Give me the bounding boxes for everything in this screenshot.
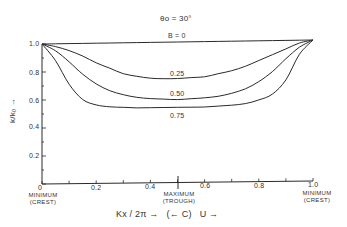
y-tick-label-0.4: 0.4 [29,123,39,130]
x-tick-label-0.4: 0.4 [145,183,155,190]
y-axis-label: k/k₀ → [8,98,17,123]
x-tick-label-0.2: 0.2 [91,184,101,191]
series-label-075: 0.75 [170,112,184,119]
y-tick-label-1.0: 1.0 [29,40,39,47]
series-label-050: 0.50 [170,90,184,97]
x-tick-label-0.6: 0.6 [200,182,210,189]
x-tick-label-0: 0 [38,184,42,191]
series-label-b0: B = 0 [168,32,186,39]
annotation-max-trough: MAXIMUM (TROUGH) [160,191,198,205]
series-line-B0 [42,40,313,44]
y-tick-label-0.8: 0.8 [29,69,39,76]
y-ticks [42,44,46,184]
chart-title: θo = 30° [160,14,192,23]
x-tick-label-1.0: 1.0 [308,181,318,188]
annotation-min-crest-left: MINIMUM (CREST) [26,192,60,206]
x-axis-caption: Kx / 2π → (← C) U → [116,209,218,219]
x-tick-label-0.8: 0.8 [254,182,264,189]
annotation-min-crest-right: MINIMUM (CREST) [300,190,334,204]
y-tick-label-0.2: 0.2 [29,152,39,159]
y-tick-label-0.6: 0.6 [29,97,39,104]
series-label-025: 0.25 [170,70,184,77]
